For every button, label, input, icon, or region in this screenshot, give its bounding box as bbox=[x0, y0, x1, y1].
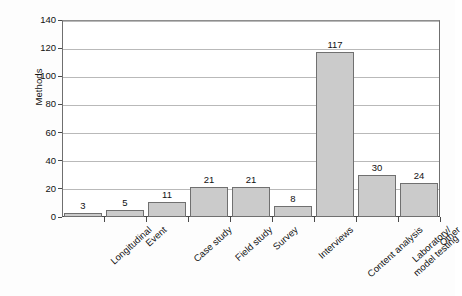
bar-value-label: 30 bbox=[353, 163, 401, 173]
y-axis-tick-label: 0 bbox=[10, 212, 56, 222]
bar bbox=[316, 52, 354, 217]
bar bbox=[190, 187, 228, 217]
y-axis-tick-label: 60 bbox=[10, 128, 56, 138]
bars-layer: 3511212181173024 bbox=[62, 20, 440, 217]
bar-value-label: 11 bbox=[143, 190, 191, 200]
x-axis-tick bbox=[188, 217, 189, 222]
bar-value-label: 8 bbox=[269, 194, 317, 204]
y-axis-tick-label: 140 bbox=[10, 15, 56, 25]
y-axis-tick-label: 20 bbox=[10, 184, 56, 194]
x-axis-tick bbox=[272, 217, 273, 222]
x-axis-category-label: Interviews bbox=[316, 224, 355, 261]
bar-value-label: 21 bbox=[227, 175, 275, 185]
bar-value-label: 3 bbox=[59, 201, 107, 211]
bar bbox=[400, 183, 438, 217]
x-axis-category-label: Field study bbox=[233, 224, 274, 263]
bar bbox=[148, 202, 186, 217]
x-axis-tick bbox=[356, 217, 357, 222]
y-axis-labels: 020406080100120140 bbox=[0, 0, 56, 296]
bar bbox=[274, 206, 312, 217]
x-axis-label-line: Case study bbox=[191, 224, 234, 264]
x-axis-tick bbox=[230, 217, 231, 222]
bar-value-label: 21 bbox=[185, 175, 233, 185]
x-axis-label-line: Field study bbox=[233, 224, 274, 263]
bar-value-label: 117 bbox=[311, 40, 359, 50]
x-axis-tick bbox=[146, 217, 147, 222]
bar bbox=[64, 213, 102, 217]
y-axis-tick-label: 120 bbox=[10, 43, 56, 53]
y-axis-tick-label: 80 bbox=[10, 99, 56, 109]
x-axis-category-label: Case study bbox=[191, 224, 234, 264]
y-axis-tick-label: 40 bbox=[10, 156, 56, 166]
x-axis-tick bbox=[440, 217, 441, 222]
x-axis-tick bbox=[398, 217, 399, 222]
x-axis-tick bbox=[314, 217, 315, 222]
x-axis-label-line: Survey bbox=[271, 224, 300, 252]
y-axis-tick-label: 100 bbox=[10, 71, 56, 81]
bar bbox=[106, 210, 144, 217]
bar-value-label: 24 bbox=[395, 171, 443, 181]
bar bbox=[232, 187, 270, 217]
bar-value-label: 5 bbox=[101, 198, 149, 208]
x-axis-tick bbox=[104, 217, 105, 222]
x-axis-label-line: Interviews bbox=[316, 224, 355, 261]
bar bbox=[358, 175, 396, 217]
x-axis-category-label: Survey bbox=[271, 224, 300, 252]
